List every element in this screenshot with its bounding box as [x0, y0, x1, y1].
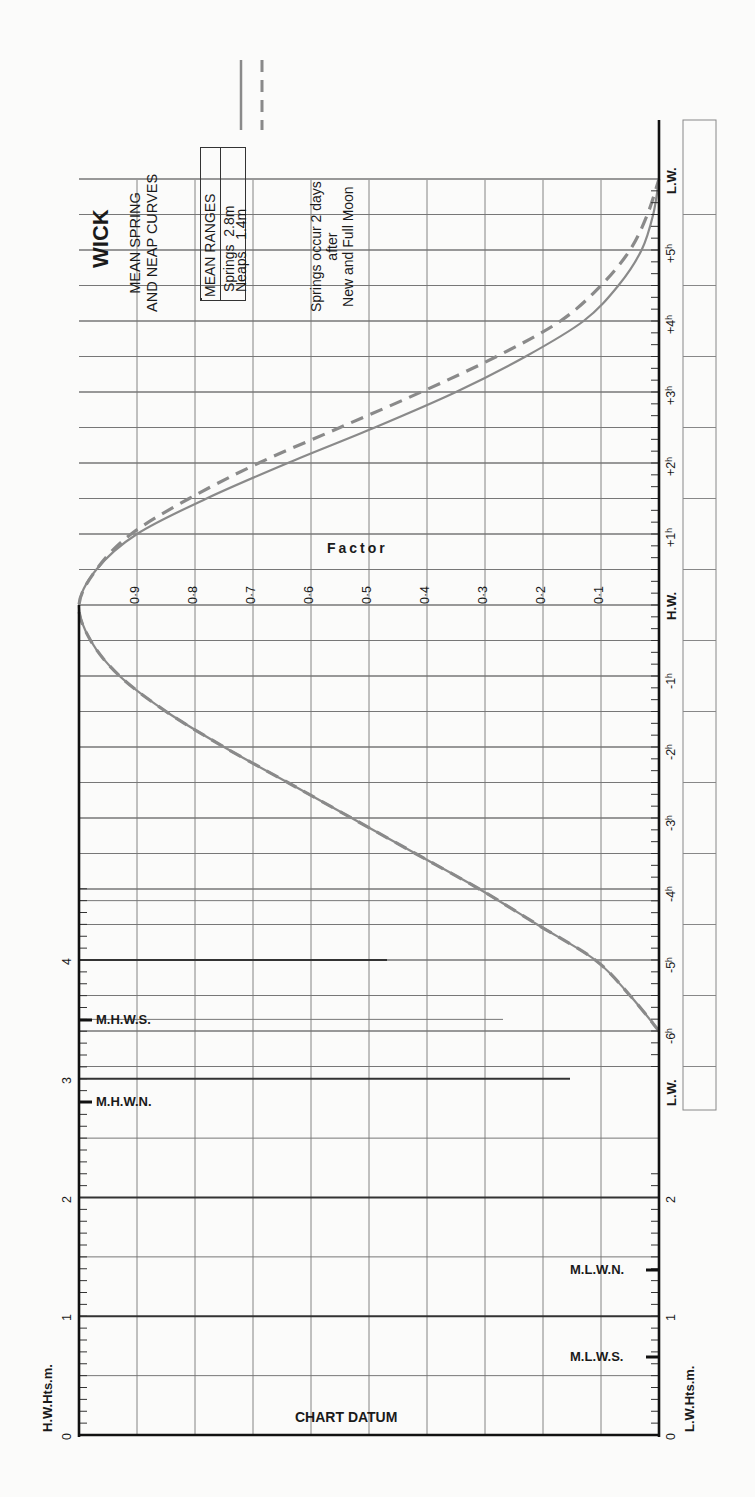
time-tick-label: H.W. — [664, 592, 679, 620]
note-line-2: after — [324, 181, 340, 312]
mean-ranges-header: MEAN RANGES — [201, 148, 221, 300]
note-line-1: Springs occur 2 days — [308, 181, 324, 312]
hw-heights-axis-title: H.W.Hts.m. — [40, 1364, 55, 1432]
time-box-column — [683, 120, 716, 1110]
factor-tick-label: 0·6 — [302, 586, 316, 604]
time-tick-label: -5ʰ — [664, 957, 678, 973]
subtitle-line-1: MEAN SPRING — [127, 174, 144, 312]
mhws-label: M.H.W.S. — [96, 1012, 151, 1027]
neaps-range: Neaps 1.4m — [235, 148, 247, 292]
mlws-label: M.L.W.S. — [570, 1349, 623, 1364]
factor-tick-label: 0·3 — [476, 586, 490, 604]
lw-height-tick-label: 0 — [664, 1433, 678, 1440]
mean-ranges-legend-box: MEAN RANGES Springs 2.8m Neaps 1.4m — [200, 147, 246, 301]
hw-height-tick-label: 1 — [60, 1314, 74, 1321]
factor-tick-label: 0·7 — [244, 586, 258, 604]
lw-heights-axis-title: L.W.Hts.m. — [682, 1366, 697, 1432]
lw-height-tick-label: 2 — [664, 1196, 678, 1203]
factor-tick-label: 0·2 — [534, 586, 548, 604]
hw-height-tick-label: 3 — [60, 1077, 74, 1084]
note-line-3: New and Full Moon — [340, 181, 356, 312]
time-tick-label: -3ʰ — [664, 815, 678, 831]
time-tick-label: +2ʰ — [664, 457, 678, 476]
chart-subtitle: MEAN SPRING AND NEAP CURVES — [127, 174, 161, 312]
chart-datum-label: CHART DATUM — [295, 1409, 397, 1425]
time-tick-label: +4ʰ — [664, 315, 678, 334]
time-tick-label: +1ʰ — [664, 528, 678, 547]
time-tick-label: -2ʰ — [664, 744, 678, 760]
legend-line-samples — [241, 60, 262, 130]
grid-lines — [79, 179, 659, 1435]
hw-height-tick-label: 4 — [60, 958, 74, 965]
factor-tick-label: 0·9 — [128, 586, 142, 604]
mhwn-label: M.H.W.N. — [96, 1094, 152, 1109]
mlwn-label: M.L.W.N. — [570, 1262, 624, 1277]
axes — [78, 120, 716, 1437]
time-tick-label: L.W. — [664, 1079, 679, 1106]
factor-tick-label: 0·8 — [186, 586, 200, 604]
time-tick-label: +3ʰ — [664, 386, 678, 405]
chart-title: WICK — [88, 209, 114, 268]
springs-note: Springs occur 2 days after New and Full … — [308, 181, 356, 312]
time-tick-label: -6ʰ — [664, 1028, 678, 1044]
factor-tick-label: 0·5 — [360, 586, 374, 604]
subtitle-line-2: AND NEAP CURVES — [144, 174, 161, 312]
factor-tick-label: 0·4 — [418, 586, 432, 604]
lw-height-tick-label: 1 — [664, 1314, 678, 1321]
time-tick-label: -4ʰ — [664, 886, 678, 902]
time-tick-label: -1ʰ — [664, 673, 678, 689]
hw-height-tick-label: 2 — [60, 1196, 74, 1203]
factor-tick-label: 0·1 — [592, 586, 606, 604]
hw-height-tick-label: 0 — [60, 1433, 74, 1440]
time-tick-label: L.W. — [664, 167, 679, 194]
time-tick-label: +5ʰ — [664, 244, 678, 263]
factor-axis-title: Factor — [327, 540, 388, 556]
